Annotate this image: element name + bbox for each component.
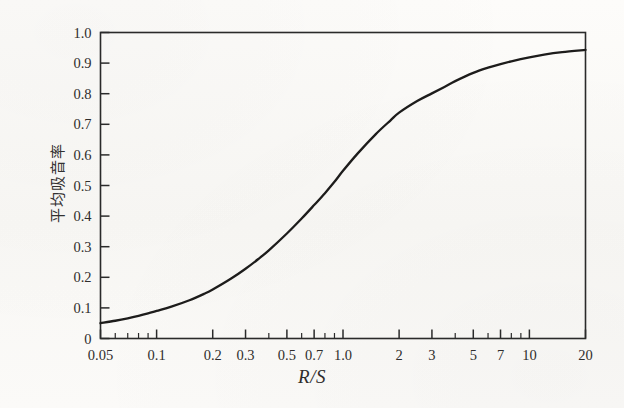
x-tick-label: 0.7 xyxy=(305,347,323,364)
x-tick-label: 1.0 xyxy=(334,347,352,364)
x-tick-label: 0.5 xyxy=(278,347,296,364)
y-tick-label: 0.1 xyxy=(73,299,91,316)
x-tick-label: 0.3 xyxy=(236,347,254,364)
data-curve xyxy=(101,50,586,323)
y-tick-label: 0.4 xyxy=(73,208,91,225)
x-tick-label: 2 xyxy=(395,347,402,364)
y-tick-label: 0.8 xyxy=(73,85,91,102)
figure-container: 平均吸音率 00.10.20.30.40.50.60.70.80.91.0 0.… xyxy=(0,0,624,408)
y-tick-label: 0.5 xyxy=(73,177,91,194)
x-axis-ticks xyxy=(101,330,586,339)
x-tick-label: 20 xyxy=(578,347,593,364)
y-tick-label: 0.7 xyxy=(73,116,91,133)
x-tick-label: 5 xyxy=(470,347,477,364)
y-tick-label: 0 xyxy=(84,330,91,347)
y-tick-label: 0.9 xyxy=(73,55,91,72)
x-tick-label: 0.1 xyxy=(148,347,166,364)
y-tick-label: 0.3 xyxy=(73,238,91,255)
y-tick-label: 0.6 xyxy=(73,146,91,163)
y-tick-label: 1.0 xyxy=(73,24,91,41)
x-tick-label: 3 xyxy=(428,347,435,364)
x-axis-title: R/S xyxy=(0,366,624,388)
axis-frame xyxy=(101,33,586,339)
y-tick-label: 0.2 xyxy=(73,269,91,286)
x-tick-label: 7 xyxy=(497,347,504,364)
y-axis-ticks xyxy=(101,33,110,339)
x-tick-label: 0.05 xyxy=(88,347,113,364)
x-tick-label: 10 xyxy=(522,347,537,364)
x-tick-label: 0.2 xyxy=(204,347,222,364)
